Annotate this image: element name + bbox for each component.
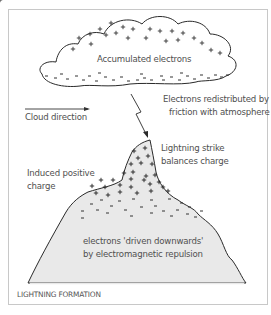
induced-label-line2: charge: [27, 181, 55, 193]
cloud-direction-arrow: [25, 107, 90, 111]
driven-label-line2: by electromagnetic repulsion: [83, 249, 203, 261]
driven-label-line1: electrons 'driven downwards': [83, 236, 203, 248]
strike-label-line2: balances charge: [161, 156, 229, 168]
cloud-shape: [40, 17, 236, 87]
lightning-diagram-graphic: [0, 0, 271, 315]
cloud-label: Accumulated electrons: [97, 54, 191, 66]
cloud-positive-charges: [0, 0, 2, 2]
induced-label-line1: Induced positive: [27, 168, 95, 180]
cloud-direction-label: Cloud direction: [25, 112, 87, 124]
redistributed-label-line1: Electrons redistributed by: [163, 94, 269, 106]
diagram-caption: LIGHTNING FORMATION: [17, 290, 101, 299]
strike-label-line1: Lightning strike: [161, 143, 224, 155]
redistributed-label-line2: friction with atmosphere: [169, 107, 270, 119]
lightning-bolt: [131, 94, 148, 138]
